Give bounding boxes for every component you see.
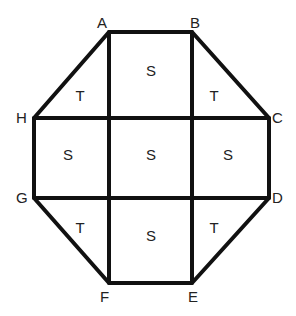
region-labels: TSTSSSTST bbox=[63, 62, 233, 244]
triangle-region-label: T bbox=[75, 219, 84, 236]
vertex-label-b: B bbox=[190, 14, 200, 31]
triangle-region-label: T bbox=[209, 219, 218, 236]
triangle-region-label: T bbox=[209, 87, 218, 104]
vertex-label-d: D bbox=[272, 189, 283, 206]
square-region-label: S bbox=[146, 227, 156, 244]
square-region-label: S bbox=[146, 62, 156, 79]
octagon-diagram: ABCDEFGH TSTSSSTST bbox=[0, 0, 296, 316]
vertex-label-f: F bbox=[100, 288, 109, 305]
square-region-label: S bbox=[223, 146, 233, 163]
vertex-label-c: C bbox=[272, 109, 283, 126]
square-region-label: S bbox=[146, 146, 156, 163]
square-region-label: S bbox=[63, 146, 73, 163]
vertex-label-g: G bbox=[16, 189, 28, 206]
vertex-label-a: A bbox=[97, 14, 107, 31]
vertex-label-h: H bbox=[16, 109, 27, 126]
vertex-label-e: E bbox=[188, 288, 198, 305]
triangle-region-label: T bbox=[75, 87, 84, 104]
